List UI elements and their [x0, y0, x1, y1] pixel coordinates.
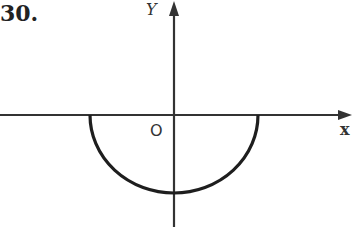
y-axis-label: Y — [146, 0, 157, 19]
origin-label: O — [150, 121, 163, 140]
coordinate-diagram — [0, 0, 356, 227]
y-axis-arrow-icon — [169, 1, 179, 16]
x-axis-label: x — [340, 120, 350, 139]
x-axis-arrow-icon — [338, 110, 352, 120]
